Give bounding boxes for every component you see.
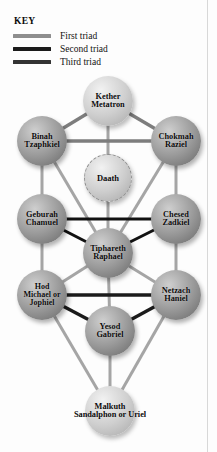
sephirah-node-hod: HodMichael orJophiel (17, 270, 67, 320)
sephirah-node-malkuth: MalkuthSandalphon or Uriel (85, 386, 135, 436)
sephirah-node-tiphareth: TipharethRaphael (83, 228, 133, 278)
sephirah-label-line: Metatron (91, 101, 124, 109)
sephirah-node-binah: BinahTzaphkiel (17, 116, 67, 166)
sephirah-node-chesed: ChesedZadkiel (151, 194, 201, 244)
sephirah-node-kether: KetherMetatron (83, 76, 133, 126)
sephirah-label-chokmah: ChokmahRaziel (158, 133, 193, 150)
sephirah-label-hod: HodMichael orJophiel (23, 283, 60, 307)
sephirah-label-line: Gabriel (96, 331, 123, 339)
sephirah-node-netzach: NetzachHaniel (151, 270, 201, 320)
sephirah-label-line: Raziel (158, 141, 193, 149)
tree-of-life-diagram: KetherMetatronBinahTzaphkielChokmahRazie… (0, 0, 217, 452)
sephirah-label-line: Chamuel (26, 219, 58, 227)
sephirah-label-kether: KetherMetatron (91, 93, 124, 110)
sephirah-label-daath: Daath (97, 174, 119, 183)
sephirah-label-yesod: YesodGabriel (96, 323, 123, 340)
sephirah-label-line: Haniel (162, 295, 191, 303)
sephirah-label-malkuth: MalkuthSandalphon or Uriel (74, 403, 146, 420)
sephirah-label-line: Jophiel (23, 299, 60, 307)
sephirah-node-daath: Daath (84, 154, 132, 202)
sephirah-label-chesed: ChesedZadkiel (162, 211, 189, 228)
sephirah-label-line: Sandalphon or Uriel (74, 411, 146, 419)
sephirah-label-line: Tzaphkiel (24, 141, 60, 149)
sephirah-label-line: Zadkiel (162, 219, 189, 227)
sephirah-label-line: Daath (97, 174, 119, 183)
sephirah-label-geburah: GeburahChamuel (26, 211, 58, 228)
sephirah-node-yesod: YesodGabriel (85, 306, 135, 356)
sephirah-node-geburah: GeburahChamuel (17, 194, 67, 244)
sephirah-label-netzach: NetzachHaniel (162, 287, 191, 304)
sephirah-label-tiphareth: TipharethRaphael (90, 245, 126, 262)
sephirah-label-binah: BinahTzaphkiel (24, 133, 60, 150)
figure-root: KEY First triad Second triad Third triad… (0, 0, 217, 452)
sephirah-node-chokmah: ChokmahRaziel (151, 116, 201, 166)
sephirah-label-line: Raphael (90, 253, 126, 261)
